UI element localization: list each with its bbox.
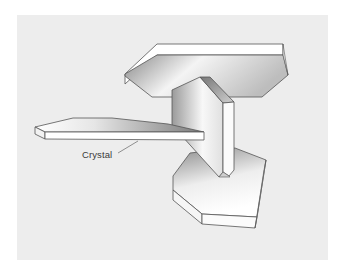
crystal-illustration xyxy=(0,0,341,273)
label-leader-line xyxy=(118,141,138,153)
crystal-label: Crystal xyxy=(82,149,112,160)
